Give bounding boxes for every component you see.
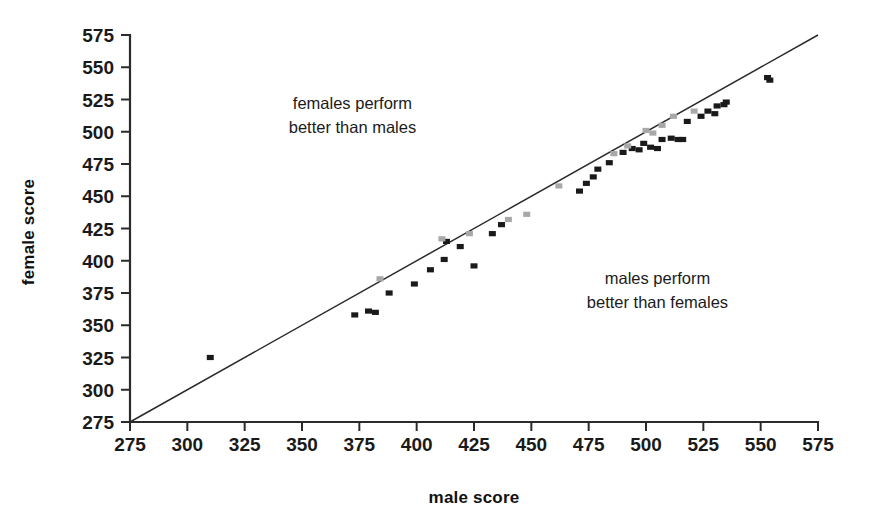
data-point-marker <box>670 114 677 119</box>
data-point-marker <box>636 147 643 152</box>
data-point-marker <box>606 160 613 165</box>
data-point-marker <box>386 290 393 295</box>
data-point-marker <box>704 109 711 114</box>
y-tick-label: 525 <box>82 90 114 111</box>
males-better-annotation-line: better than females <box>587 293 728 311</box>
data-point-marker <box>207 355 214 360</box>
females-better-annotation-line: females perform <box>293 94 412 112</box>
data-point-marker <box>668 136 675 141</box>
x-tick-label: 325 <box>229 434 261 455</box>
data-point-marker <box>489 231 496 236</box>
data-point-marker <box>647 145 654 150</box>
x-tick-label: 550 <box>745 434 777 455</box>
x-tick-label: 275 <box>114 434 146 455</box>
data-point-marker <box>438 236 445 241</box>
data-point-marker <box>643 128 650 133</box>
y-tick-label: 300 <box>82 380 114 401</box>
y-tick-label: 550 <box>82 57 114 78</box>
data-point-marker <box>654 146 661 151</box>
data-point-marker <box>698 114 705 119</box>
x-tick-label: 375 <box>343 434 375 455</box>
data-point-marker <box>620 150 627 155</box>
data-point-marker <box>427 267 434 272</box>
females-better-annotation-line: better than males <box>289 118 417 136</box>
data-point-marker <box>411 281 418 286</box>
y-tick-label: 275 <box>82 412 114 433</box>
data-point-marker <box>714 103 721 108</box>
data-point-marker <box>766 78 773 83</box>
data-point-marker <box>590 174 597 179</box>
data-point-marker <box>457 244 464 249</box>
data-point-marker <box>679 137 686 142</box>
x-axis-title: male score <box>429 488 520 507</box>
x-tick-label: 450 <box>515 434 547 455</box>
y-tick-label: 350 <box>82 315 114 336</box>
y-tick-label: 425 <box>82 219 114 240</box>
data-point-marker <box>376 276 383 281</box>
y-tick-label: 500 <box>82 122 114 143</box>
y-axis-title: female score <box>19 179 38 285</box>
y-tick-label: 575 <box>82 25 114 46</box>
data-point-marker <box>659 123 666 128</box>
data-point-marker <box>365 308 372 313</box>
x-tick-label: 350 <box>286 434 318 455</box>
data-point-marker <box>640 141 647 146</box>
data-point-marker <box>723 99 730 104</box>
x-tick-label: 525 <box>687 434 719 455</box>
data-point-marker <box>583 181 590 186</box>
data-point-marker <box>691 109 698 114</box>
data-point-marker <box>624 143 631 148</box>
data-point-marker <box>649 130 656 135</box>
data-point-marker <box>711 111 718 116</box>
males-better-annotation-line: males perform <box>605 269 710 287</box>
data-point-marker <box>498 222 505 227</box>
data-point-marker <box>372 310 379 315</box>
y-tick-label: 400 <box>82 251 114 272</box>
x-tick-label: 300 <box>171 434 203 455</box>
data-point-marker <box>684 119 691 124</box>
data-point-marker <box>523 212 530 217</box>
data-point-marker <box>471 263 478 268</box>
data-point-marker <box>576 188 583 193</box>
data-point-marker <box>441 257 448 262</box>
y-tick-label: 475 <box>82 154 114 175</box>
data-point-marker <box>505 217 512 222</box>
x-tick-label: 400 <box>401 434 433 455</box>
y-tick-label: 450 <box>82 186 114 207</box>
data-point-marker <box>466 231 473 236</box>
y-tick-label: 325 <box>82 348 114 369</box>
data-point-marker <box>351 312 358 317</box>
data-point-marker <box>610 151 617 156</box>
x-tick-label: 475 <box>573 434 605 455</box>
y-tick-label: 375 <box>82 283 114 304</box>
data-point-marker <box>594 167 601 172</box>
scatter-plot-figure: 275300325350375400425450475500525550575 … <box>0 0 875 518</box>
x-tick-label: 575 <box>802 434 834 455</box>
data-point-marker <box>659 137 666 142</box>
x-tick-label: 425 <box>458 434 490 455</box>
x-tick-label: 500 <box>630 434 662 455</box>
data-point-marker <box>555 183 562 188</box>
chart-canvas: 275300325350375400425450475500525550575 … <box>0 0 875 518</box>
